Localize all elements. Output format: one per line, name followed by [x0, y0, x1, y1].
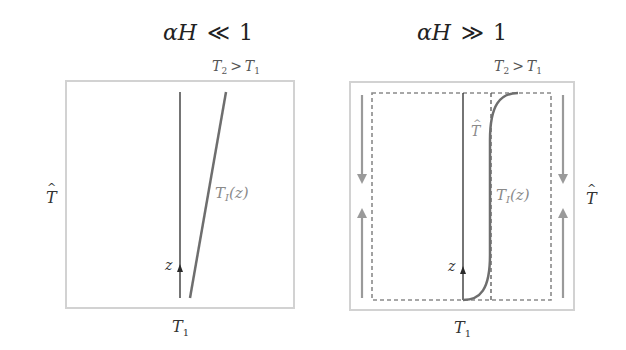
right-profile-label: TI(z) — [496, 186, 530, 205]
right-box — [350, 82, 574, 310]
right-bottom-label: T1 — [454, 318, 471, 339]
right-inner-label-hat: ^ — [473, 117, 481, 128]
left-z-label: z — [164, 257, 173, 273]
left-up-arrowhead-icon — [357, 208, 367, 218]
right-side-label-hat: ^ — [587, 182, 596, 195]
left-side-label-hat: ^ — [47, 181, 56, 194]
left-down-arrowhead-icon — [357, 174, 367, 184]
right-title: αH ≫ 1 — [417, 20, 507, 45]
right-top-label: T2>T1 — [494, 58, 542, 76]
right-up-arrowhead-icon — [558, 208, 568, 218]
right-panel: αH ≫ 1 T2>T1 T ^ TI(z) T ^ — [350, 20, 598, 339]
diagram-canvas: αH ≪ 1 T2>T1 T ^ TI(z) z T1 αH ≫ 1 — [0, 0, 626, 350]
right-z-arrow-icon — [460, 266, 466, 274]
right-z-label: z — [447, 258, 456, 274]
left-profile-label: TI(z) — [215, 184, 249, 203]
left-title: αH ≪ 1 — [163, 20, 253, 45]
left-z-arrow-icon — [177, 264, 183, 272]
left-bottom-label: T1 — [172, 317, 189, 338]
left-panel: αH ≪ 1 T2>T1 T ^ TI(z) z T1 — [46, 20, 294, 338]
left-top-label: T2>T1 — [212, 58, 260, 76]
right-down-arrowhead-icon — [558, 174, 568, 184]
